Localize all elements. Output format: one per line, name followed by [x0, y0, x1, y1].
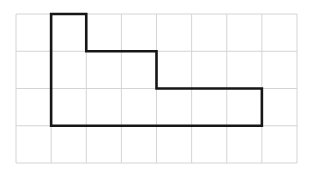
grid-polygon-figure	[0, 0, 313, 172]
figure-canvas	[0, 0, 313, 172]
